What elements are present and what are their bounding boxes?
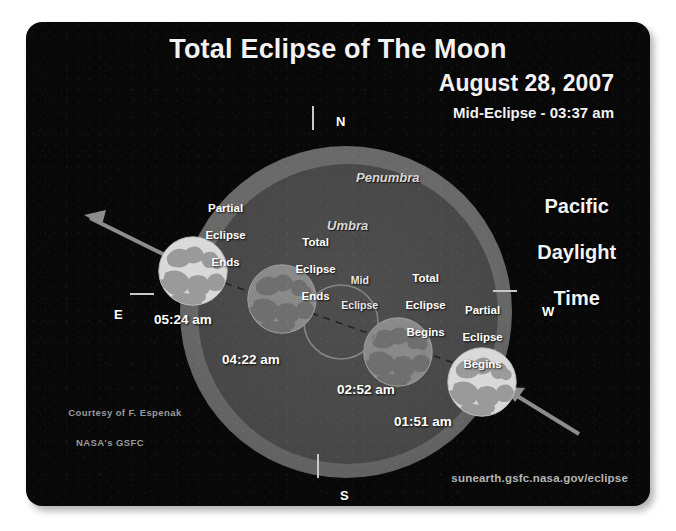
motion-arrow-exit-icon <box>84 210 169 257</box>
time-partial-eclipse-ends: 05:24 am <box>154 312 212 327</box>
credit-line-1: Courtesy of F. Espenak <box>68 407 181 418</box>
credit-line-2: NASA's GSFC <box>50 436 182 451</box>
time-total-eclipse-ends: 04:22 am <box>222 352 280 367</box>
timezone-line-3: Time <box>554 287 600 309</box>
timezone-line-1: Pacific <box>544 195 608 217</box>
compass-east: E <box>114 307 123 322</box>
timezone-line-2: Daylight <box>537 241 616 263</box>
label-partial-eclipse-ends: Partial Eclipse Ends <box>173 188 259 283</box>
credit-block: Courtesy of F. Espenak NASA's GSFC <box>50 392 182 480</box>
total-ends-line-1: Total <box>302 236 329 248</box>
partial-ends-line-2: Eclipse <box>205 229 245 241</box>
label-partial-eclipse-begins: Partial Eclipse Begins <box>430 290 516 385</box>
time-partial-eclipse-begins: 01:51 am <box>394 414 452 429</box>
mid-line-1: Mid <box>351 274 369 286</box>
partial-begins-line-3: Begins <box>463 358 501 370</box>
total-begins-line-1: Total <box>412 272 439 284</box>
partial-ends-line-3: Ends <box>212 256 240 268</box>
timezone-label: Pacific Daylight Time <box>500 172 620 333</box>
eclipse-date: August 28, 2007 <box>439 70 614 97</box>
partial-ends-line-1: Partial <box>208 202 243 214</box>
mid-line-2: Eclipse <box>341 299 378 311</box>
partial-begins-line-1: Partial <box>465 304 500 316</box>
compass-west: W <box>542 304 554 319</box>
time-total-eclipse-begins: 02:52 am <box>337 382 395 397</box>
partial-begins-line-2: Eclipse <box>462 331 502 343</box>
compass-south: S <box>340 488 349 503</box>
page-title: Total Eclipse of The Moon <box>26 34 650 65</box>
penumbra-label: Penumbra <box>356 170 420 185</box>
eclipse-poster-panel: Total Eclipse of The Moon August 28, 200… <box>26 22 650 506</box>
screenshot-root: Total Eclipse of The Moon August 28, 200… <box>0 0 676 531</box>
website-url: sunearth.gsfc.nasa.gov/eclipse <box>451 472 628 484</box>
mid-eclipse-time: Mid-Eclipse - 03:37 am <box>453 104 614 121</box>
compass-north: N <box>336 114 345 129</box>
